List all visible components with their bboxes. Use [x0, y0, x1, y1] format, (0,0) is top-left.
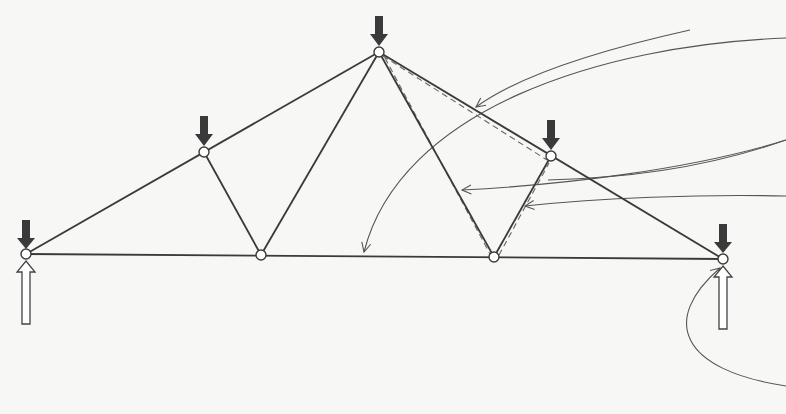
bottom-chord — [26, 254, 723, 259]
joints — [21, 47, 728, 264]
joint-left-upper — [199, 147, 209, 157]
load-arrow-icon — [195, 116, 213, 146]
web-right-2 — [494, 156, 551, 257]
web-right-1 — [379, 52, 494, 257]
leader-web-right-1 — [462, 140, 786, 190]
web-left-2 — [261, 52, 379, 255]
reaction-arrows — [17, 261, 732, 329]
leader-web-right-2 — [525, 195, 786, 206]
truss-members — [26, 52, 723, 259]
leader-right-support — [687, 268, 786, 386]
leader-top-chord-right — [548, 140, 786, 180]
load-arrow-icon — [17, 220, 35, 249]
joint-left-support — [21, 249, 31, 259]
leader-top-chord-arrow — [476, 30, 690, 107]
reaction-arrow-icon — [714, 266, 732, 329]
highlighted-members — [383, 56, 549, 255]
load-arrow-icon — [542, 120, 560, 150]
truss-diagram — [0, 0, 786, 414]
joint-right-support — [718, 254, 728, 264]
leader-lines — [364, 30, 786, 386]
joint-left-bottom — [256, 250, 266, 260]
web-left-1 — [204, 152, 261, 255]
joint-apex — [374, 47, 384, 57]
load-arrow-icon — [714, 224, 732, 253]
joint-right-bottom — [489, 252, 499, 262]
load-arrow-icon — [370, 16, 388, 46]
leader-bottom-chord — [364, 38, 786, 252]
joint-right-upper — [546, 151, 556, 161]
reaction-arrow-icon — [17, 261, 35, 324]
